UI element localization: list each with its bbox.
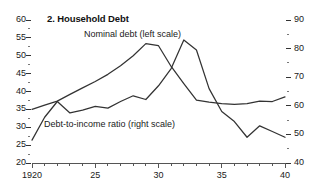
x-axis-ticks	[32, 163, 285, 168]
right-axis-tick-label: 40	[294, 158, 314, 167]
left-axis-tick-label: 50	[8, 51, 26, 60]
series-lines	[32, 40, 285, 140]
x-axis-tick-label: 1920	[19, 171, 45, 180]
left-axis-tick-label: 40	[8, 87, 26, 96]
right-axis-tick-label: 70	[294, 72, 314, 81]
left-axis-ticks	[26, 20, 31, 163]
right-axis-tick-label: 60	[294, 101, 314, 110]
left-axis-tick-label: 55	[8, 33, 26, 42]
chart-plot-area	[0, 0, 316, 193]
left-axis-tick-label: 25	[8, 140, 26, 149]
x-axis-tick-label: 40	[272, 171, 298, 180]
left-axis-tick-label: 35	[8, 104, 26, 113]
left-axis-tick-label: 30	[8, 122, 26, 131]
right-axis-ticks	[286, 20, 291, 163]
left-axis-tick-label: 45	[8, 69, 26, 78]
right-axis-tick-label: 50	[294, 129, 314, 138]
x-axis-tick-label: 25	[82, 171, 108, 180]
left-axis-tick-label: 20	[8, 158, 26, 167]
left-axis-tick-label: 60	[8, 15, 26, 24]
right-axis-tick-label: 90	[294, 15, 314, 24]
x-axis-tick-label: 35	[209, 171, 235, 180]
right-axis-tick-label: 80	[294, 44, 314, 53]
household-debt-chart-figure: 2. Household Debt Nominal debt (left sca…	[0, 0, 316, 193]
x-axis-tick-label: 30	[146, 171, 172, 180]
